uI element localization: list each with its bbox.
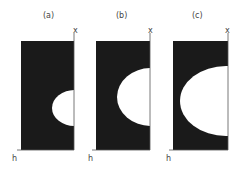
panel-a-x-label: x (73, 26, 78, 35)
panel-a-bubble (52, 90, 98, 126)
panel-b-h-label: h (88, 154, 93, 163)
panel-b: (b) x h (88, 11, 185, 163)
panel-b-x-label: x (148, 26, 153, 35)
panel-c-title: (c) (192, 11, 203, 20)
panel-a-title: (a) (43, 11, 54, 20)
panel-b-title: (b) (116, 11, 127, 20)
panel-c-x-label: x (225, 26, 230, 35)
figure-canvas: (a) x h (b) x h (c) x h (0, 0, 238, 171)
panel-c-h-label: h (166, 154, 171, 163)
panel-a: (a) x h (12, 11, 98, 163)
panel-a-h-label: h (12, 154, 17, 163)
panel-c: (c) x h (166, 11, 238, 163)
